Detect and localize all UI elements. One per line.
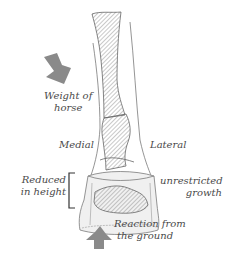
hoof-diagram: Weight of horse Medial Lateral Reduced i… [0,0,235,257]
reaction-label-line2: the ground [114,230,186,242]
reaction-label-line1: Reaction from [114,218,186,230]
weight-of-horse-label: Weight of horse [44,90,92,114]
reduced-label-line2: in height [14,186,66,198]
reaction-from-ground-label: Reaction from the ground [114,218,186,242]
lateral-label: Lateral [150,139,186,151]
unrestricted-label-line2: growth [160,187,222,199]
unrestricted-growth-label: unrestricted growth [160,175,222,199]
weight-label-line1: Weight of [44,90,92,102]
weight-of-horse-arrow [44,53,71,84]
cannon-bone [92,12,125,118]
reduced-height-bracket [69,173,75,208]
reduced-in-height-label: Reduced in height [14,174,66,198]
pastern-bone [102,114,130,170]
unrestricted-label-line1: unrestricted [160,175,222,187]
weight-label-line2: horse [44,102,92,114]
medial-label: Medial [59,139,94,151]
reduced-label-line1: Reduced [14,174,66,186]
